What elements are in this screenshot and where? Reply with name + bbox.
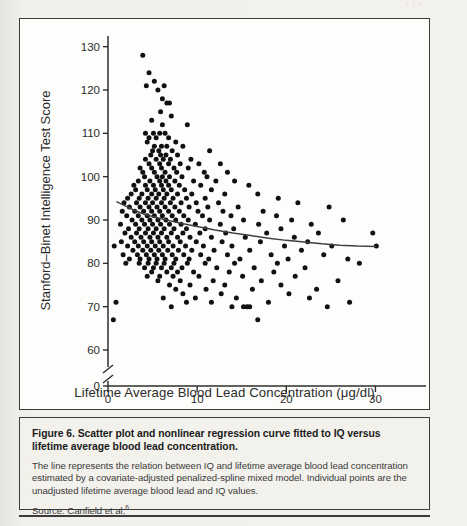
scatter-point <box>156 248 161 253</box>
scatter-point <box>250 287 255 292</box>
scatter-point <box>118 222 123 227</box>
scatter-point <box>155 235 160 240</box>
scatter-point <box>209 300 214 305</box>
scatter-point <box>181 252 186 257</box>
scatter-point <box>147 70 152 75</box>
scatter-point <box>155 257 160 262</box>
scatter-point <box>196 209 201 214</box>
scatter-point <box>151 131 156 136</box>
scatter-point <box>149 209 154 214</box>
scatter-point <box>161 187 166 192</box>
scatter-point <box>186 218 191 223</box>
scatter-point <box>345 257 350 262</box>
scatter-point <box>289 218 294 223</box>
scatter-point <box>282 244 287 249</box>
scatter-point <box>163 179 168 184</box>
scatter-point <box>121 252 126 257</box>
scatter-point <box>166 135 171 140</box>
scatter-point <box>167 174 172 179</box>
scatter-point <box>180 291 185 296</box>
scatter-point <box>157 274 162 279</box>
scatter-point <box>124 213 129 218</box>
scatter-point <box>136 213 141 218</box>
scatter-point <box>229 304 234 309</box>
scatter-point <box>143 200 148 205</box>
y-axis-title: Stanford–Binet Intelligence Test Score <box>38 90 53 310</box>
scatter-point <box>127 257 132 262</box>
scatter-point <box>207 218 212 223</box>
scatter-point <box>207 148 212 153</box>
scatter-point <box>159 231 164 236</box>
scatter-point <box>164 235 169 240</box>
plot-area: 607080901001101201300 0102030 Stanford–B… <box>20 19 429 409</box>
scatter-point <box>292 235 297 240</box>
scatter-point <box>347 300 352 305</box>
scatter-point <box>240 274 245 279</box>
scatter-point <box>177 183 182 188</box>
scatter-point <box>169 187 174 192</box>
scatter-point <box>256 222 261 227</box>
scatter-point <box>149 118 154 123</box>
scatter-point <box>252 265 257 270</box>
scatter-point <box>261 209 266 214</box>
y-tick-label: 90 <box>87 214 100 226</box>
scatter-point <box>167 222 172 227</box>
scatter-point <box>162 261 167 266</box>
scatter-point <box>155 88 160 93</box>
scatter-point <box>246 183 251 188</box>
scatter-point <box>137 196 142 201</box>
scatter-point <box>140 170 145 175</box>
scatter-point <box>286 257 291 262</box>
caption-source-label: Source: Canfield et al. <box>32 505 125 516</box>
scatter-point <box>162 226 167 231</box>
scatter-point <box>197 231 202 236</box>
scatter-point <box>212 248 217 253</box>
scatter-point <box>133 222 138 227</box>
scatter-point <box>171 196 176 201</box>
scatter-point <box>120 209 125 214</box>
scatter-point <box>154 157 159 162</box>
scatter-point <box>187 205 192 210</box>
scatter-point <box>131 183 136 188</box>
scatter-point <box>157 161 162 166</box>
scatter-point <box>206 257 211 262</box>
y-tick-label: 120 <box>81 84 100 96</box>
scatter-point <box>126 226 131 231</box>
scatter-point <box>278 283 283 288</box>
scatter-point <box>180 231 185 236</box>
scatter-point <box>191 270 196 275</box>
caption-source-reference: 6 <box>125 503 129 510</box>
scatter-point <box>162 196 167 201</box>
scatter-point <box>182 187 187 192</box>
scatter-plot-svg: 607080901001101201300 0102030 Stanford–B… <box>20 19 431 411</box>
scatter-point <box>164 192 169 197</box>
y-axis-title-group: Stanford–Binet Intelligence Test Score <box>38 90 53 310</box>
scatter-point <box>144 83 149 88</box>
scatter-point <box>196 161 201 166</box>
scatter-point <box>321 252 326 257</box>
scatter-point <box>152 170 157 175</box>
scatter-point <box>173 140 178 145</box>
scatter-point <box>200 213 205 218</box>
scatter-point <box>160 252 165 257</box>
scatter-point <box>132 239 137 244</box>
scatter-point <box>138 166 143 171</box>
scatter-point <box>194 200 199 205</box>
scatter-point <box>357 261 362 266</box>
scatter-point <box>202 170 207 175</box>
scatter-point <box>154 135 159 140</box>
data-points-group <box>111 53 379 322</box>
scatter-point <box>150 200 155 205</box>
scatter-point <box>134 200 139 205</box>
scatter-point <box>193 296 198 301</box>
scatter-point <box>169 304 174 309</box>
scatter-point <box>130 218 135 223</box>
scatter-point <box>173 257 178 262</box>
scatter-point <box>316 231 321 236</box>
scatter-point <box>184 300 189 305</box>
scatter-point <box>136 244 141 249</box>
scatter-point <box>168 157 173 162</box>
scatter-point <box>138 235 143 240</box>
scatter-point <box>196 274 201 279</box>
scatter-point <box>234 296 239 301</box>
